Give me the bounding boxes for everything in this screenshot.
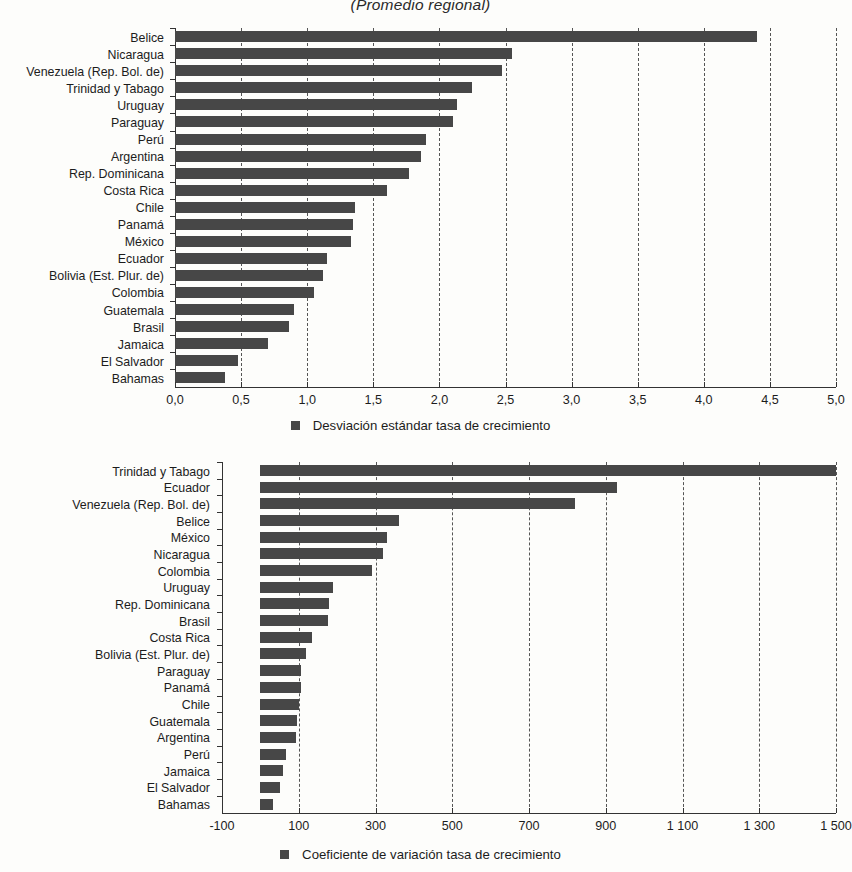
x-axis-tick xyxy=(759,808,760,813)
chart-1-legend: Coeficiente de variación tasa de crecimi… xyxy=(0,847,841,862)
x-axis-tick-label: 4,0 xyxy=(695,393,713,407)
bar xyxy=(175,202,355,213)
y-axis-tick xyxy=(170,199,175,200)
x-axis-tick-label: 1,5 xyxy=(365,393,383,407)
x-axis-tick xyxy=(836,382,837,387)
category-label: Panamá xyxy=(0,219,170,231)
y-axis-tick xyxy=(217,495,222,496)
x-axis-tick xyxy=(572,382,573,387)
y-axis-tick xyxy=(170,113,175,114)
chart-0-category-labels: BeliceNicaraguaVenezuela (Rep. Bol. de)T… xyxy=(0,28,170,388)
y-axis-tick xyxy=(217,562,222,563)
category-label: Rep. Dominicana xyxy=(0,168,170,180)
chart-coeficiente-variacion: Trinidad y TabagoEcuadorVenezuela (Rep. … xyxy=(0,462,841,872)
y-axis-tick xyxy=(217,545,222,546)
bar xyxy=(260,749,286,760)
category-label: Panamá xyxy=(0,682,216,694)
category-label: Jamaica xyxy=(0,766,216,778)
gridline xyxy=(572,28,573,386)
x-axis-tick-label: 100 xyxy=(288,819,309,833)
bar xyxy=(175,372,225,383)
category-label: Venezuela (Rep. Bol. de) xyxy=(0,499,216,511)
category-label: Perú xyxy=(0,134,170,146)
bar xyxy=(175,321,289,332)
x-axis-tick xyxy=(376,808,377,813)
category-label: Nicaragua xyxy=(0,549,216,561)
y-axis-tick xyxy=(170,45,175,46)
bar xyxy=(260,765,283,776)
bar xyxy=(260,498,575,509)
x-axis-tick xyxy=(704,382,705,387)
bar xyxy=(175,31,757,42)
chart-1-y-axis-line xyxy=(222,462,223,812)
bar xyxy=(260,565,371,576)
x-axis-tick-label: -100 xyxy=(209,819,234,833)
x-axis-tick-label: 900 xyxy=(595,819,616,833)
gridline xyxy=(704,28,705,386)
x-axis-tick xyxy=(307,382,308,387)
category-label: El Salvador xyxy=(0,356,170,368)
y-axis-tick xyxy=(170,165,175,166)
bar xyxy=(175,116,453,127)
category-label: Bolivia (Est. Plur. de) xyxy=(0,649,216,661)
x-axis-tick xyxy=(439,382,440,387)
x-axis-tick-label: 1 500 xyxy=(820,819,852,833)
bar xyxy=(260,532,387,543)
y-axis-tick xyxy=(170,96,175,97)
y-axis-tick xyxy=(170,182,175,183)
x-axis-tick-label: 2,5 xyxy=(497,393,515,407)
gridline xyxy=(770,28,771,386)
bar xyxy=(175,253,327,264)
category-label: Argentina xyxy=(0,732,216,744)
category-label: Jamaica xyxy=(0,339,170,351)
bar xyxy=(175,270,323,281)
category-label: Costa Rica xyxy=(0,632,216,644)
y-axis-tick xyxy=(170,284,175,285)
y-axis-tick xyxy=(170,79,175,80)
gridline xyxy=(683,462,684,812)
category-label: Ecuador xyxy=(0,482,216,494)
y-axis-tick xyxy=(170,301,175,302)
x-axis-tick xyxy=(529,808,530,813)
category-label: Ecuador xyxy=(0,253,170,265)
y-axis-tick xyxy=(170,267,175,268)
category-label: Colombia xyxy=(0,287,170,299)
bar xyxy=(260,632,312,643)
x-axis-tick-label: 1 300 xyxy=(743,819,775,833)
chart-0-plot-area xyxy=(175,28,836,386)
category-label: Belice xyxy=(0,516,216,528)
category-label: Venezuela (Rep. Bol. de) xyxy=(0,66,170,78)
y-axis-tick xyxy=(217,696,222,697)
y-axis-tick xyxy=(217,479,222,480)
x-axis-tick xyxy=(638,382,639,387)
x-axis-tick xyxy=(175,382,176,387)
y-axis-tick xyxy=(217,662,222,663)
x-axis-tick xyxy=(299,808,300,813)
bar xyxy=(260,465,836,476)
y-axis-tick xyxy=(217,645,222,646)
x-axis-line xyxy=(175,387,836,388)
y-axis-tick xyxy=(217,579,222,580)
x-axis-tick xyxy=(836,808,837,813)
bar xyxy=(175,99,457,110)
y-axis-tick xyxy=(170,148,175,149)
y-axis-tick xyxy=(170,131,175,132)
category-label: Rep. Dominicana xyxy=(0,599,216,611)
x-axis-tick-label: 5,0 xyxy=(827,393,845,407)
y-axis-tick xyxy=(217,746,222,747)
category-label: México xyxy=(0,236,170,248)
bar xyxy=(260,548,383,559)
bar xyxy=(260,598,329,609)
x-axis-tick xyxy=(241,382,242,387)
gridline xyxy=(529,462,530,812)
square-marker-icon xyxy=(291,421,300,430)
bar xyxy=(175,65,502,76)
category-label: Trinidad y Tabago xyxy=(0,83,170,95)
y-axis-tick xyxy=(170,335,175,336)
bar xyxy=(175,134,426,145)
bar xyxy=(260,515,398,526)
x-axis-tick-label: 1 100 xyxy=(667,819,699,833)
y-axis-tick xyxy=(217,779,222,780)
category-label: Bahamas xyxy=(0,373,170,385)
